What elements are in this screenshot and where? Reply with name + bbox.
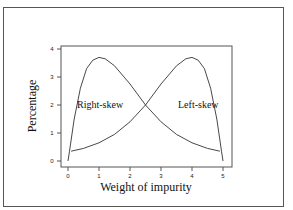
x-tick-label: 5 xyxy=(221,173,225,179)
x-tick-label: 0 xyxy=(66,173,70,179)
annotation-left-skew: Left-skew xyxy=(178,99,219,110)
x-axis-label: Weight of impurity xyxy=(100,180,192,194)
y-tick-label: 1 xyxy=(50,130,54,136)
y-tick-label: 2 xyxy=(50,102,54,108)
x-tick-label: 2 xyxy=(128,173,132,179)
y-axis-label: Percentage xyxy=(25,80,39,133)
x-tick-label: 1 xyxy=(97,173,101,179)
annotation-right-skew: Right-skew xyxy=(77,99,124,110)
x-axis: 012345 xyxy=(66,167,225,179)
line-chart: 01234 012345 Right-skew Left-skew Weight… xyxy=(0,0,293,210)
y-tick-label: 0 xyxy=(50,158,54,164)
y-axis: 01234 xyxy=(50,46,61,164)
y-tick-label: 3 xyxy=(50,74,54,80)
x-tick-label: 4 xyxy=(190,173,194,179)
y-tick-label: 4 xyxy=(50,46,54,52)
x-tick-label: 3 xyxy=(159,173,163,179)
